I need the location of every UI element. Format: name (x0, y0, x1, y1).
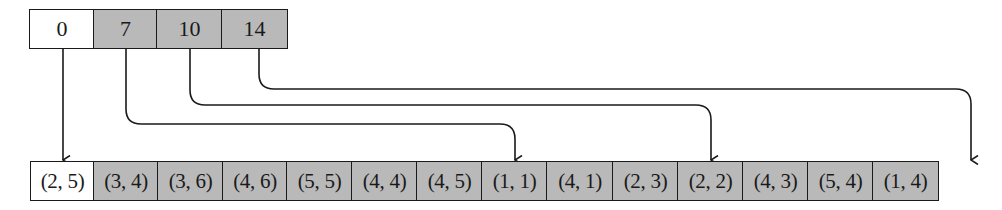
pair-cell-2: (3, 6) (157, 161, 224, 201)
pair-cell-6: (4, 5) (416, 161, 483, 201)
arrow-offset-7 (126, 48, 515, 160)
pair-cell-0: (2, 5) (30, 161, 95, 201)
pair-cell-12: (5, 4) (807, 161, 874, 201)
offset-cell-1: 7 (93, 9, 158, 49)
pair-cell-10: (2, 2) (677, 161, 744, 201)
pair-cell-5: (4, 4) (351, 161, 418, 201)
pair-cell-11: (4, 3) (742, 161, 809, 201)
offset-cell-0: 0 (29, 9, 95, 49)
offset-cell-3: 14 (221, 9, 288, 49)
pair-cell-7: (1, 1) (481, 161, 548, 201)
arrow-offset-14 (259, 48, 971, 160)
pair-cell-4: (5, 5) (286, 161, 353, 201)
pair-cell-13: (1, 4) (872, 161, 939, 201)
pair-cell-9: (2, 3) (612, 161, 679, 201)
arrow-offset-10 (190, 48, 711, 160)
pair-cell-8: (4, 1) (546, 161, 614, 201)
pair-cell-3: (4, 6) (222, 161, 288, 201)
offset-cell-2: 10 (156, 9, 223, 49)
pair-cell-1: (3, 4) (93, 161, 159, 201)
